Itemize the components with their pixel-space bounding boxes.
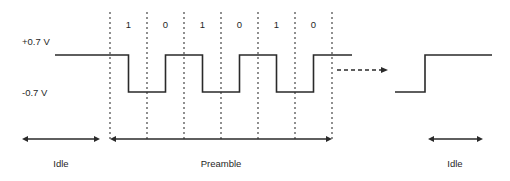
- voltage-low-label: -0.7 V: [22, 87, 48, 98]
- bit-label-3: 0: [237, 19, 242, 30]
- diagram-canvas: 101010 +0.7 V -0.7 V IdlePreambleIdle: [0, 0, 510, 181]
- voltage-high-label: +0.7 V: [22, 36, 50, 47]
- bit-label-5: 0: [311, 19, 316, 30]
- manchester-waveform: [55, 55, 352, 92]
- voltage-level-labels: +0.7 V -0.7 V: [22, 36, 50, 98]
- dashed-continuation-arrow: [337, 67, 388, 73]
- bit-label-0: 1: [126, 19, 131, 30]
- idle-left-label: Idle: [53, 158, 68, 169]
- preamble-annotation: Preamble: [110, 136, 332, 169]
- continuation-arrowhead: [381, 67, 388, 73]
- bit-label-2: 1: [200, 19, 205, 30]
- preamble-label: Preamble: [201, 158, 242, 169]
- rising-edge-step: [395, 55, 492, 92]
- idle-right-arrowhead-left: [428, 136, 434, 142]
- bit-cell-gridlines: [110, 12, 332, 140]
- idle-left-arrowhead-left: [22, 136, 28, 142]
- waveform-path: [55, 55, 352, 92]
- idle-right-annotation: Idle: [428, 136, 483, 169]
- bit-label-1: 0: [163, 19, 168, 30]
- idle-left-arrowhead-right: [94, 136, 100, 142]
- region-annotations: IdlePreambleIdle: [22, 136, 483, 169]
- preamble-arrowhead-left: [110, 136, 116, 142]
- idle-left-annotation: Idle: [22, 136, 100, 169]
- idle-right-label: Idle: [447, 158, 462, 169]
- signal-timing-diagram: 101010 +0.7 V -0.7 V IdlePreambleIdle: [0, 0, 510, 181]
- rising-step-path: [395, 55, 492, 92]
- preamble-arrowhead-right: [326, 136, 332, 142]
- bit-label-4: 1: [274, 19, 279, 30]
- idle-right-arrowhead-right: [477, 136, 483, 142]
